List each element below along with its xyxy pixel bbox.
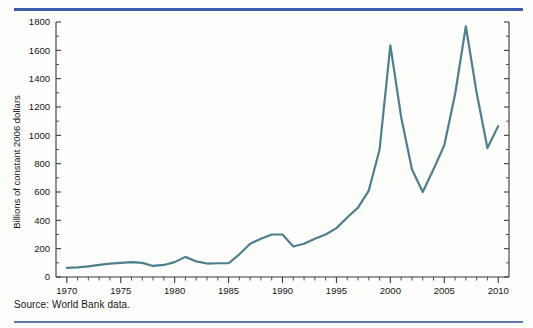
x-tick-label: 1975 <box>110 285 131 296</box>
x-tick-label: 1985 <box>218 285 239 296</box>
y-tick-label: 1200 <box>29 101 50 112</box>
y-tick-label: 1400 <box>29 73 50 84</box>
y-tick-label: 1000 <box>29 130 50 141</box>
x-axis: 197019751980198519901995200020052010 <box>56 277 509 296</box>
series-line <box>67 26 498 268</box>
bottom-accent-rule <box>14 321 523 323</box>
data-series <box>67 26 498 268</box>
y-tick-label: 1600 <box>29 45 50 56</box>
x-tick-label: 1970 <box>56 285 77 296</box>
top-accent-rule <box>14 8 523 11</box>
right-axis <box>504 22 509 277</box>
y-tick-label: 400 <box>34 215 50 226</box>
x-tick-label: 1980 <box>164 285 185 296</box>
x-tick-label: 2010 <box>488 285 509 296</box>
y-tick-label: 0 <box>45 271 50 282</box>
y-tick-label: 800 <box>34 158 50 169</box>
y-axis-title: Billions of constant 2006 dollars <box>11 95 22 229</box>
y-tick-label: 200 <box>34 243 50 254</box>
x-tick-label: 2000 <box>380 285 401 296</box>
line-chart: 020040060080010001200140016001800 197019… <box>0 12 533 297</box>
x-tick-label: 1990 <box>272 285 293 296</box>
x-tick-label: 2005 <box>434 285 455 296</box>
y-axis: 020040060080010001200140016001800 <box>29 16 61 282</box>
source-note: Source: World Bank data. <box>14 299 130 310</box>
y-tick-label: 600 <box>34 186 50 197</box>
figure-container: 020040060080010001200140016001800 197019… <box>0 0 533 328</box>
chart-plot-area: 020040060080010001200140016001800 197019… <box>0 12 533 297</box>
x-tick-label: 1995 <box>326 285 347 296</box>
y-tick-label: 1800 <box>29 16 50 27</box>
